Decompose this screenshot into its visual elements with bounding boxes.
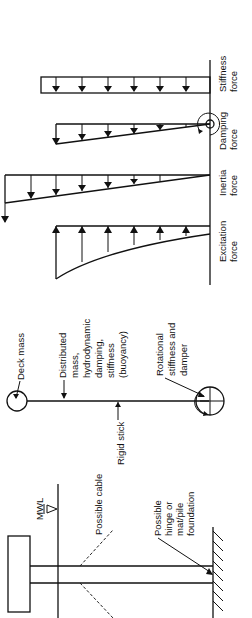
possible-cable-label: Possible cable bbox=[93, 474, 104, 535]
deck-rect bbox=[8, 536, 30, 612]
distributed-label-5: stiffness bbox=[105, 343, 116, 378]
stiffness-force-diagram bbox=[41, 77, 210, 93]
mwl-marker-icon bbox=[47, 505, 57, 513]
hinge-label-3: mat/pile bbox=[174, 503, 185, 536]
damping-force-label-1: Damping bbox=[217, 112, 228, 150]
cable-lower bbox=[80, 583, 113, 618]
deck-mass-label: Deck mass bbox=[15, 333, 26, 380]
hinge-label-1: Possible bbox=[152, 500, 163, 536]
excitation-force-diagram bbox=[52, 226, 210, 279]
rotational-label-1: Rotational bbox=[154, 333, 165, 376]
rigid-stick-label: Rigid stick bbox=[115, 421, 126, 465]
distributed-label-1: Distributed bbox=[57, 333, 68, 378]
mwl-label: MWL bbox=[34, 498, 45, 520]
distributed-label-6: (buoyancy) bbox=[117, 331, 128, 378]
distributed-label-3: hydrodynamic bbox=[81, 319, 92, 378]
inertia-force-label-1: Inertia bbox=[217, 169, 228, 196]
structure-panel: MWL Possible cable Possible hinge or mat… bbox=[8, 474, 223, 618]
excitation-force-label-1: Excitation bbox=[217, 221, 228, 262]
stiffness-force-label-2: force bbox=[228, 71, 239, 92]
inertia-force-diagram bbox=[1, 175, 210, 223]
damping-force-diagram bbox=[52, 113, 220, 145]
inertia-force-label-2: force bbox=[228, 175, 239, 196]
hinge-label-4: foundation bbox=[185, 492, 196, 536]
diagram-canvas: Stiffness force Damping force Inertia fo… bbox=[0, 0, 252, 618]
rotational-label-3: damper bbox=[178, 344, 189, 376]
excitation-force-label-2: force bbox=[228, 241, 239, 262]
distributed-label-4: damping, bbox=[93, 339, 104, 378]
distributed-label-2: mass, bbox=[69, 353, 80, 378]
hinge-label-2: hinge or bbox=[163, 502, 174, 536]
rotational-label-2: stiffness and bbox=[166, 323, 177, 376]
seabed-hatch bbox=[213, 531, 223, 611]
model-panel: Deck mass Distributed mass, hydrodynamic… bbox=[7, 319, 224, 465]
damping-force-label-2: force bbox=[228, 129, 239, 150]
force-panel: Stiffness force Damping force Inertia fo… bbox=[1, 55, 239, 285]
stiffness-force-label-1: Stiffness bbox=[217, 55, 228, 92]
